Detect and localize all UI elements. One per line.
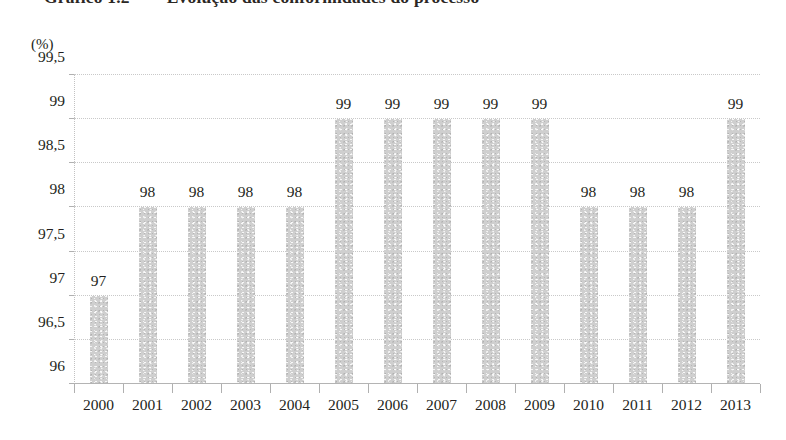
bar-group: 98 <box>662 75 711 384</box>
x-axis-tick-mark <box>662 384 663 393</box>
y-axis-tick-label: 98 <box>50 180 66 198</box>
bar-group: 98 <box>270 75 319 384</box>
bar-value-label: 99 <box>385 95 401 113</box>
y-axis-tick-label: 99 <box>50 92 66 110</box>
y-axis-tick-label: 96 <box>50 357 66 375</box>
x-axis-tick-label: 2008 <box>466 396 515 414</box>
x-axis-tick-mark <box>417 384 418 393</box>
bar-value-label: 98 <box>679 183 695 201</box>
x-axis-tick-label: 2006 <box>368 396 417 414</box>
x-axis-tick-label: 2011 <box>613 396 662 414</box>
chart-title-separator: – <box>130 0 167 7</box>
x-axis-tick-mark <box>221 384 222 393</box>
bar[interactable] <box>188 207 206 384</box>
bar[interactable] <box>727 119 745 384</box>
bar-group: 98 <box>123 75 172 384</box>
x-axis-tick-label: 2000 <box>74 396 123 414</box>
x-axis-tick-label: 2007 <box>417 396 466 414</box>
bar[interactable] <box>482 119 500 384</box>
bar[interactable] <box>286 207 304 384</box>
chart-title: Gráfico 1.2–Evolução das conformidades d… <box>44 0 479 7</box>
x-axis-tick-label: 2003 <box>221 396 270 414</box>
bar-group: 99 <box>515 75 564 384</box>
chart-title-prefix: Gráfico 1.2 <box>44 0 130 7</box>
bar-value-label: 99 <box>728 95 744 113</box>
bar[interactable] <box>384 119 402 384</box>
x-axis-tick-mark <box>270 384 271 393</box>
y-axis-tick-label: 97,5 <box>38 225 65 243</box>
bar-value-label: 99 <box>434 95 450 113</box>
x-axis-tick-label: 2010 <box>564 396 613 414</box>
bar-value-label: 98 <box>140 183 156 201</box>
bar-value-label: 99 <box>336 95 352 113</box>
y-axis-tick-label: 99,5 <box>38 48 65 66</box>
bar-group: 98 <box>564 75 613 384</box>
bar[interactable] <box>433 119 451 384</box>
x-axis-tick-label: 2013 <box>711 396 760 414</box>
x-axis-tick-labels: 2000200120022003200420052006200720082009… <box>74 396 760 414</box>
bar-value-label: 98 <box>189 183 205 201</box>
bar-value-label: 98 <box>287 183 303 201</box>
bar[interactable] <box>580 207 598 384</box>
bar-value-label: 98 <box>630 183 646 201</box>
x-axis-tick-mark <box>74 384 75 393</box>
x-axis-tick-mark <box>123 384 124 393</box>
bar-value-label: 98 <box>581 183 597 201</box>
bar[interactable] <box>629 207 647 384</box>
x-axis-tick-label: 2005 <box>319 396 368 414</box>
x-axis-tick-mark <box>319 384 320 393</box>
x-axis-tick-label: 2002 <box>172 396 221 414</box>
x-axis-tick-label: 2012 <box>662 396 711 414</box>
bar-group: 98 <box>613 75 662 384</box>
plot-area: 9696,59797,59898,59999,5 979898989899999… <box>74 75 760 384</box>
x-axis-tick-mark <box>466 384 467 393</box>
bar[interactable] <box>678 207 696 384</box>
bar-group: 98 <box>172 75 221 384</box>
y-axis-tick-label: 96,5 <box>38 313 65 331</box>
x-axis-tick-mark <box>172 384 173 393</box>
x-axis-tick-label: 2001 <box>123 396 172 414</box>
bar-value-label: 98 <box>238 183 254 201</box>
y-axis-tick-label: 97 <box>50 269 66 287</box>
x-axis-tick-mark <box>515 384 516 393</box>
y-axis-tick-label: 98,5 <box>38 136 65 154</box>
bar-group: 99 <box>711 75 760 384</box>
bar[interactable] <box>139 207 157 384</box>
x-axis-tick-label: 2009 <box>515 396 564 414</box>
bar[interactable] <box>237 207 255 384</box>
bar-group: 97 <box>74 75 123 384</box>
chart-title-text: Evolução das conformidades do processo <box>167 0 480 7</box>
x-axis-tick-label: 2004 <box>270 396 319 414</box>
bar-group: 99 <box>466 75 515 384</box>
x-axis-tick-mark <box>613 384 614 393</box>
bar-group: 99 <box>417 75 466 384</box>
bar[interactable] <box>335 119 353 384</box>
bar-value-label: 97 <box>91 272 107 290</box>
bar-value-label: 99 <box>483 95 499 113</box>
x-axis-tick-mark <box>760 384 761 393</box>
bar-value-label: 99 <box>532 95 548 113</box>
bar[interactable] <box>531 119 549 384</box>
x-axis-tick-mark <box>711 384 712 393</box>
x-axis-tick-mark <box>564 384 565 393</box>
bar-group: 99 <box>368 75 417 384</box>
bar-series: 9798989898999999999998989899 <box>74 75 760 384</box>
x-axis-tick-mark <box>368 384 369 393</box>
bar[interactable] <box>90 296 108 384</box>
bar-group: 98 <box>221 75 270 384</box>
x-axis-ticks <box>74 384 760 393</box>
bar-group: 99 <box>319 75 368 384</box>
